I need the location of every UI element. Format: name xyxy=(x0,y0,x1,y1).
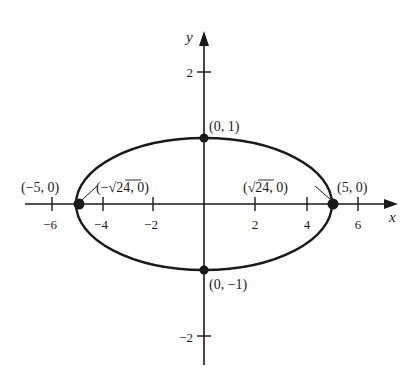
left-focus-leader xyxy=(82,186,97,200)
x-tick-label: −2 xyxy=(144,217,158,232)
point-right-vertex xyxy=(328,199,339,210)
x-tick-label: 6 xyxy=(355,217,362,232)
x-tick-label: −6 xyxy=(43,217,57,232)
y-axis-label: y xyxy=(184,29,193,45)
label-bottom-vertex: (0, −1) xyxy=(209,277,248,293)
point-bottom-vertex xyxy=(200,266,209,275)
ellipse-diagram: −6 −4 −2 2 4 6 x 2 −2 y (0, 1) (0, −1) (… xyxy=(0,0,417,387)
label-left-focus: (−√24, 0) xyxy=(96,180,149,196)
y-axis: 2 −2 y xyxy=(179,29,211,365)
point-top-vertex xyxy=(200,134,209,143)
y-axis-arrow-icon xyxy=(199,31,209,46)
x-tick-label: −4 xyxy=(94,217,108,232)
svg-text:(−√24, 0): (−√24, 0) xyxy=(96,180,149,196)
x-tick-label: 4 xyxy=(304,217,311,232)
y-tick-label: 2 xyxy=(187,65,194,80)
x-axis-arrow-icon xyxy=(384,199,398,209)
point-left-vertex xyxy=(74,199,85,210)
label-left-vertex: (−5, 0) xyxy=(21,180,60,196)
label-top-vertex: (0, 1) xyxy=(209,119,240,135)
y-tick-label: −2 xyxy=(179,330,193,345)
svg-text:(√24, 0): (√24, 0) xyxy=(243,180,288,196)
x-axis-label: x xyxy=(388,209,396,225)
label-right-focus: (√24, 0) xyxy=(243,180,288,196)
label-right-vertex: (5, 0) xyxy=(337,180,368,196)
x-tick-label: 2 xyxy=(252,217,259,232)
